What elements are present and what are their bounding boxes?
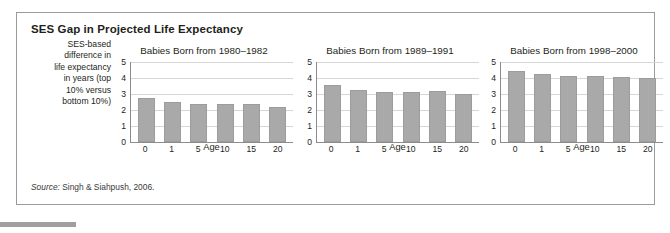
y-tick-label: 2 bbox=[483, 106, 496, 114]
y-tick-label: 2 bbox=[113, 106, 126, 114]
bar bbox=[560, 76, 577, 142]
figure-title: SES Gap in Projected Life Expectancy bbox=[31, 23, 243, 35]
x-axis-label: Age bbox=[130, 142, 293, 152]
plot-wrapper: 543210015101520 bbox=[483, 62, 665, 150]
bar bbox=[376, 92, 393, 142]
bar bbox=[455, 94, 472, 142]
y-tick-label: 4 bbox=[483, 74, 496, 82]
y-tick-label: 5 bbox=[299, 58, 312, 66]
y-tick-label: 0 bbox=[113, 138, 126, 146]
bar bbox=[613, 77, 630, 142]
plot-wrapper: 543210015101520 bbox=[113, 62, 295, 150]
y-tick-label: 1 bbox=[299, 122, 312, 130]
chart-panel-1989-1991: Babies Born from 1989–1991 5432100151015… bbox=[299, 45, 481, 175]
bar bbox=[429, 91, 446, 142]
y-tick-label: 1 bbox=[483, 122, 496, 130]
y-tick-label: 0 bbox=[483, 138, 496, 146]
plot-area bbox=[316, 62, 479, 143]
chart-title: Babies Born from 1980–1982 bbox=[113, 45, 295, 56]
bar bbox=[138, 98, 155, 142]
bar bbox=[164, 102, 181, 142]
y-tick-label: 4 bbox=[299, 74, 312, 82]
y-tick-label: 3 bbox=[113, 90, 126, 98]
bar bbox=[190, 104, 207, 142]
plot-area bbox=[500, 62, 663, 143]
source-label: Source: bbox=[31, 182, 60, 192]
y-tick-label: 1 bbox=[113, 122, 126, 130]
source-text: Singh & Siahpush, 2006. bbox=[60, 182, 155, 192]
y-tick-label: 5 bbox=[483, 58, 496, 66]
chart-panel-1980-1982: Babies Born from 1980–1982 5432100151015… bbox=[113, 45, 295, 175]
bar bbox=[350, 90, 367, 142]
charts-row: Babies Born from 1980–1982 5432100151015… bbox=[17, 45, 654, 175]
page-artifact-bar bbox=[0, 222, 76, 227]
chart-title: Babies Born from 1989–1991 bbox=[299, 45, 481, 56]
bar bbox=[324, 85, 341, 142]
bar bbox=[587, 76, 604, 142]
plot-area bbox=[130, 62, 293, 143]
y-tick-label: 5 bbox=[113, 58, 126, 66]
source-line: Source: Singh & Siahpush, 2006. bbox=[31, 182, 154, 192]
x-axis-label: Age bbox=[316, 142, 479, 152]
bar-group bbox=[131, 62, 293, 142]
bar bbox=[639, 78, 656, 142]
bar bbox=[269, 107, 286, 142]
chart-title: Babies Born from 1998–2000 bbox=[483, 45, 665, 56]
y-tick-label: 3 bbox=[483, 90, 496, 98]
bar-group bbox=[501, 62, 663, 142]
bar bbox=[508, 71, 525, 142]
bar-group bbox=[317, 62, 479, 142]
y-tick-label: 3 bbox=[299, 90, 312, 98]
figure-container: SES Gap in Projected Life Expectancy SES… bbox=[16, 12, 655, 205]
chart-panel-1998-2000: Babies Born from 1998–2000 5432100151015… bbox=[483, 45, 665, 175]
x-axis-label: Age bbox=[500, 142, 663, 152]
plot-wrapper: 543210015101520 bbox=[299, 62, 481, 150]
y-tick-label: 0 bbox=[299, 138, 312, 146]
y-tick-label: 2 bbox=[299, 106, 312, 114]
bar bbox=[403, 92, 420, 142]
y-tick-label: 4 bbox=[113, 74, 126, 82]
bar bbox=[217, 104, 234, 142]
bar bbox=[534, 74, 551, 142]
bar bbox=[243, 104, 260, 142]
